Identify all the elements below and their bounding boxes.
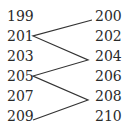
- left-number: 199: [7, 8, 34, 24]
- left-number: 203: [7, 48, 34, 64]
- left-number: 201: [7, 28, 34, 44]
- right-number: 204: [95, 48, 122, 64]
- right-number: 200: [95, 8, 122, 24]
- right-number: 210: [95, 108, 122, 124]
- right-number: 206: [95, 68, 122, 84]
- right-number: 202: [95, 28, 122, 44]
- left-number: 209: [7, 108, 34, 124]
- number-zigzag-diagram: 199 201 203 205 207 209 200 202 204 206 …: [0, 0, 123, 136]
- right-number: 208: [95, 88, 122, 104]
- left-number: 205: [7, 68, 34, 84]
- left-number: 207: [7, 88, 34, 104]
